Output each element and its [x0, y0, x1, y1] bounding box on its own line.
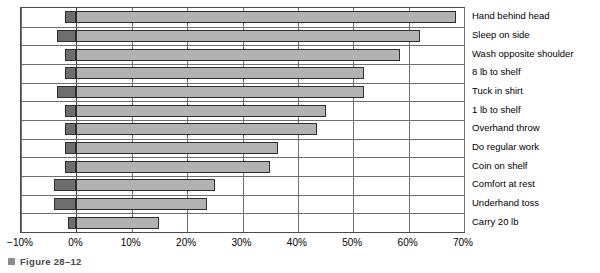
bar-segment-positive[interactable] — [76, 179, 214, 191]
bar-row[interactable] — [21, 123, 464, 135]
figure-caption: Figure 28–12 — [8, 256, 82, 267]
gridline-70 — [464, 8, 465, 232]
bar-segment-negative[interactable] — [65, 105, 76, 117]
bar-segment-positive[interactable] — [76, 30, 419, 42]
bar-row[interactable] — [21, 142, 464, 154]
category-label: 8 lb to shelf — [472, 66, 521, 77]
bar-segment-negative[interactable] — [65, 49, 76, 61]
category-label: Do regular work — [472, 141, 539, 152]
bar-series-layer — [21, 8, 464, 232]
x-tick-label: 50% — [342, 236, 362, 249]
x-tick-label: 0% — [68, 236, 82, 249]
bar-segment-positive[interactable] — [76, 217, 159, 229]
category-label: Underhand toss — [472, 197, 539, 208]
bar-segment-positive[interactable] — [76, 86, 364, 98]
category-label: Hand behind head — [472, 10, 550, 21]
chart-plot-area — [20, 7, 465, 233]
bar-segment-negative[interactable] — [65, 11, 76, 23]
bar-segment-positive[interactable] — [76, 11, 455, 23]
square-bullet-icon — [8, 258, 15, 265]
figure-container: Hand behind headSleep on sideWash opposi… — [0, 0, 600, 273]
bar-row[interactable] — [21, 86, 464, 98]
x-tick-label: 10% — [121, 236, 141, 249]
bar-segment-negative[interactable] — [65, 67, 76, 79]
category-label: Wash opposite shoulder — [472, 48, 574, 59]
bar-row[interactable] — [21, 105, 464, 117]
bar-row[interactable] — [21, 49, 464, 61]
category-label: Sleep on side — [472, 29, 530, 40]
x-tick-label: 30% — [231, 236, 251, 249]
x-tick-label: −10% — [7, 236, 33, 249]
x-tick-label: 20% — [176, 236, 196, 249]
category-label: Coin on shelf — [472, 160, 527, 171]
bar-row[interactable] — [21, 179, 464, 191]
bar-segment-negative[interactable] — [54, 179, 76, 191]
category-label: Comfort at rest — [472, 178, 535, 189]
category-axis-labels: Hand behind headSleep on sideWash opposi… — [472, 7, 600, 233]
bar-segment-negative[interactable] — [65, 161, 76, 173]
bar-segment-negative[interactable] — [57, 86, 76, 98]
bar-row[interactable] — [21, 217, 464, 229]
bar-segment-positive[interactable] — [76, 67, 364, 79]
bar-segment-negative[interactable] — [68, 217, 76, 229]
bar-segment-positive[interactable] — [76, 105, 325, 117]
category-label: Carry 20 lb — [472, 216, 518, 227]
bar-segment-negative[interactable] — [54, 198, 76, 210]
bar-row[interactable] — [21, 198, 464, 210]
bar-segment-positive[interactable] — [76, 198, 206, 210]
bar-segment-positive[interactable] — [76, 161, 270, 173]
category-label: Overhand throw — [472, 122, 540, 133]
bar-row[interactable] — [21, 11, 464, 23]
x-tick-label: 60% — [398, 236, 418, 249]
figure-caption-text: Figure 28–12 — [20, 256, 82, 267]
bar-segment-positive[interactable] — [76, 49, 400, 61]
bar-row[interactable] — [21, 67, 464, 79]
x-axis-tick-labels: −10%0%10%20%30%40%50%60%70% — [20, 236, 465, 252]
x-tick-label: 70% — [453, 236, 473, 249]
bar-row[interactable] — [21, 30, 464, 42]
bar-segment-negative[interactable] — [65, 142, 76, 154]
bar-segment-positive[interactable] — [76, 123, 317, 135]
bar-segment-negative[interactable] — [57, 30, 76, 42]
bar-row[interactable] — [21, 161, 464, 173]
x-tick-label: 40% — [287, 236, 307, 249]
bar-segment-negative[interactable] — [65, 123, 76, 135]
bar-segment-positive[interactable] — [76, 142, 278, 154]
category-label: Tuck in shirt — [472, 85, 523, 96]
category-label: 1 lb to shelf — [472, 104, 521, 115]
